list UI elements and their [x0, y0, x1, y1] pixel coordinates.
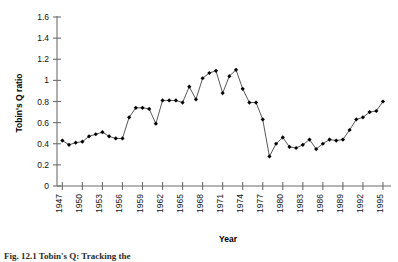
y-tick-label: 0: [44, 181, 49, 191]
x-axis-title: Year: [219, 234, 238, 244]
data-point-marker: [107, 134, 111, 138]
data-point-marker: [187, 85, 191, 89]
figure-container: 00.20.40.60.811.21.41.6 1947195019531956…: [0, 0, 398, 262]
data-point-marker: [247, 100, 251, 104]
x-tick-label: 1971: [215, 194, 225, 213]
data-point-marker: [140, 106, 144, 110]
data-point-marker: [94, 132, 98, 136]
data-point-marker: [261, 117, 265, 121]
x-tick-label: 1980: [275, 194, 285, 213]
x-tick-label: 1995: [375, 194, 385, 213]
x-axis-group: 1947195019531956195919621965196819711974…: [54, 182, 391, 213]
data-point-marker: [114, 136, 118, 140]
x-tick-label: 1962: [155, 194, 165, 213]
data-point-marker: [120, 136, 124, 140]
data-point-marker: [354, 117, 358, 121]
x-tick-label: 1977: [255, 194, 265, 213]
plot-area: [60, 68, 385, 159]
x-tick-label: 1965: [175, 194, 185, 213]
figure-caption: Fig. 12.1 Tobin's Q: Tracking the: [4, 250, 398, 262]
data-point-marker: [160, 98, 164, 102]
y-tick-label: 0.6: [37, 118, 49, 128]
data-point-marker: [147, 107, 151, 111]
x-axis-ticks: 1947195019531956195919621965196819711974…: [54, 182, 385, 213]
data-point-marker: [60, 138, 64, 142]
data-point-marker: [74, 141, 78, 145]
data-point-marker: [214, 69, 218, 73]
data-point-marker: [180, 100, 184, 104]
x-tick-label: 1953: [94, 194, 104, 213]
y-axis-title: Tobin's Q ratio: [14, 73, 24, 132]
y-tick-label: 0.8: [37, 97, 49, 107]
series-markers-tobins-q: [60, 68, 385, 159]
y-tick-label: 0.4: [37, 139, 49, 149]
data-point-marker: [254, 100, 258, 104]
y-axis-group: 00.20.40.60.811.21.41.6: [37, 12, 61, 191]
x-tick-label: 1992: [355, 194, 365, 213]
data-point-marker: [100, 130, 104, 134]
data-point-marker: [167, 98, 171, 102]
x-tick-label: 1989: [335, 194, 345, 213]
tobins-q-line-chart: 00.20.40.60.811.21.41.6 1947195019531956…: [0, 0, 398, 248]
data-point-marker: [194, 97, 198, 101]
data-point-marker: [334, 138, 338, 142]
x-tick-label: 1986: [315, 194, 325, 213]
y-tick-label: 1.2: [37, 54, 49, 64]
y-tick-label: 0.2: [37, 160, 49, 170]
x-tick-label: 1974: [235, 194, 245, 213]
data-point-marker: [221, 91, 225, 95]
x-tick-label: 1968: [195, 194, 205, 213]
series-line-tobins-q: [62, 70, 383, 157]
x-tick-label: 1950: [74, 194, 84, 213]
x-tick-label: 1983: [295, 194, 305, 213]
x-tick-label: 1959: [135, 194, 145, 213]
y-tick-label: 1.6: [37, 12, 49, 22]
data-point-marker: [241, 87, 245, 91]
data-point-marker: [67, 143, 71, 147]
x-tick-label: 1956: [114, 194, 124, 213]
data-point-marker: [174, 98, 178, 102]
data-point-marker: [154, 122, 158, 126]
data-point-marker: [267, 154, 271, 158]
y-tick-label: 1: [44, 75, 49, 85]
x-tick-label: 1947: [54, 194, 64, 213]
data-point-marker: [327, 137, 331, 141]
data-point-marker: [294, 146, 298, 150]
y-tick-label: 1.4: [37, 33, 49, 43]
